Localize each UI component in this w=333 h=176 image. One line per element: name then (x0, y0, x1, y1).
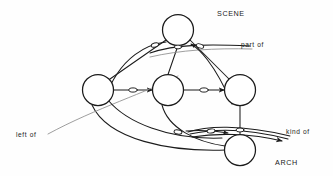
node-mid-block[interactable] (153, 75, 184, 106)
node-arch[interactable] (225, 135, 256, 166)
node-scene[interactable] (163, 15, 194, 46)
node-left-block[interactable] (83, 75, 114, 106)
label-part-of: part of (241, 41, 264, 48)
edge-scene-to-right-block (190, 40, 229, 79)
semantic-network-graphic (0, 0, 333, 176)
label-left-of: left of (16, 131, 36, 138)
link-marker-kind-of-1 (207, 128, 215, 133)
link-marker-left-of-1 (129, 88, 137, 92)
link-marker-part-of-3 (174, 45, 181, 49)
curve-mid-block-to-arch (162, 105, 225, 146)
link-marker-part-of-1 (151, 42, 159, 48)
node-right-block[interactable] (225, 75, 256, 106)
label-kind-of: kind of (286, 128, 310, 135)
edge-scene-to-mid-block (168, 46, 178, 75)
link-marker-left-of-2 (200, 88, 208, 92)
label-scene: SCENE (217, 9, 245, 18)
link-marker-kind-of-2 (236, 128, 244, 132)
diagram-canvas: SCENE part of left of kind of ARCH (0, 0, 333, 176)
label-arch: ARCH (275, 158, 298, 167)
curve-left-block-to-arch (92, 105, 226, 150)
